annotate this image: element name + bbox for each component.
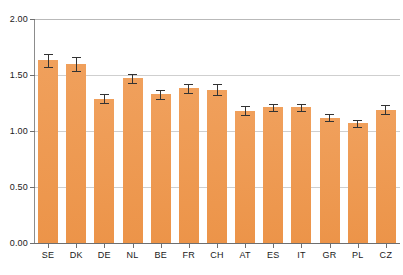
bar	[348, 123, 368, 243]
error-bar-cap-lower	[184, 93, 193, 94]
error-bar-line	[160, 90, 161, 99]
x-axis-tick-mark	[245, 244, 246, 248]
error-bar-cap-lower	[269, 111, 278, 112]
error-bar-cap-upper	[44, 54, 53, 55]
y-axis-tick-label: 1.50	[0, 70, 28, 81]
error-bar-cap-upper	[100, 94, 109, 95]
error-bar-cap-lower	[156, 99, 165, 100]
bar-group	[348, 19, 368, 243]
y-axis-tick-mark	[30, 131, 35, 132]
x-axis-tick-label: SE	[34, 250, 62, 260]
x-axis-tick-mark	[133, 244, 134, 248]
y-axis-tick-label: 2.00	[0, 14, 28, 25]
bar-chart: 0.000.501.001.502.00 SEDKDENLBEFRCHATESI…	[0, 0, 403, 275]
y-axis-tick-text: 0.50	[0, 182, 28, 192]
x-axis-tick-label: DE	[90, 250, 118, 260]
bar-group	[38, 19, 58, 243]
x-axis-tick-mark	[301, 244, 302, 248]
x-axis-tick-label: CH	[203, 250, 231, 260]
x-axis-tick-mark	[48, 244, 49, 248]
x-axis-tick-label: BE	[147, 250, 175, 260]
bar	[66, 64, 86, 243]
y-axis-tick-label: 1.00	[0, 126, 28, 137]
x-axis-tick-mark	[189, 244, 190, 248]
bar-group	[291, 19, 311, 243]
bar-group	[376, 19, 396, 243]
bar	[179, 88, 199, 243]
bar	[151, 94, 171, 243]
error-bar-cap-upper	[156, 90, 165, 91]
bar-group	[207, 19, 227, 243]
x-axis-tick-mark	[386, 244, 387, 248]
y-axis-tick-text: 1.50	[0, 70, 28, 80]
y-axis-tick-text: 2.00	[0, 14, 28, 24]
x-axis-tick-mark	[330, 244, 331, 248]
error-bar-line	[188, 84, 189, 93]
error-bar-cap-lower	[72, 71, 81, 72]
x-axis-tick-label: CZ	[372, 250, 400, 260]
bar	[94, 99, 114, 243]
x-axis-tick-mark	[76, 244, 77, 248]
x-axis-tick-label: PL	[344, 250, 372, 260]
error-bar-cap-lower	[128, 83, 137, 84]
error-bar-cap-lower	[381, 114, 390, 115]
bar-group	[66, 19, 86, 243]
bar-group	[151, 19, 171, 243]
y-axis-tick-mark	[30, 187, 35, 188]
error-bar-cap-lower	[241, 115, 250, 116]
error-bar-cap-upper	[213, 84, 222, 85]
bar-group	[123, 19, 143, 243]
bar-group	[179, 19, 199, 243]
error-bar-cap-lower	[325, 121, 334, 122]
error-bar-line	[301, 104, 302, 111]
error-bar-line	[104, 94, 105, 103]
bar-group	[235, 19, 255, 243]
error-bar-line	[245, 106, 246, 115]
bar	[263, 107, 283, 243]
x-axis-tick-label: AT	[231, 250, 259, 260]
y-axis-tick-mark	[30, 75, 35, 76]
error-bar-line	[48, 54, 49, 67]
y-axis-tick-text: 1.00	[0, 126, 28, 136]
bar	[123, 78, 143, 243]
error-bar-cap-lower	[213, 95, 222, 96]
bar-group	[320, 19, 340, 243]
bar	[235, 111, 255, 243]
error-bar-cap-lower	[100, 103, 109, 104]
y-axis-tick-label: 0.00	[0, 238, 28, 249]
x-axis-tick-label: IT	[287, 250, 315, 260]
error-bar-line	[357, 120, 358, 127]
bar-group	[94, 19, 114, 243]
error-bar-line	[273, 104, 274, 111]
x-axis-tick-label: ES	[259, 250, 287, 260]
error-bar-line	[132, 74, 133, 83]
y-axis-tick-mark	[30, 19, 35, 20]
x-axis-tick-label: NL	[118, 250, 146, 260]
error-bar-line	[217, 84, 218, 95]
bar	[207, 90, 227, 243]
error-bar-cap-upper	[353, 120, 362, 121]
error-bar-line	[329, 114, 330, 121]
error-bar-cap-upper	[184, 84, 193, 85]
x-axis-tick-mark	[161, 244, 162, 248]
x-axis-tick-mark	[217, 244, 218, 248]
bar	[376, 110, 396, 243]
error-bar-cap-upper	[269, 104, 278, 105]
error-bar-cap-lower	[44, 67, 53, 68]
error-bar-cap-upper	[128, 74, 137, 75]
bar	[291, 107, 311, 243]
bar-group	[263, 19, 283, 243]
x-axis-tick-mark	[104, 244, 105, 248]
error-bar-cap-upper	[241, 106, 250, 107]
error-bar-line	[76, 57, 77, 70]
error-bar-cap-upper	[297, 104, 306, 105]
x-axis-tick-label: GR	[316, 250, 344, 260]
bar	[38, 60, 58, 243]
x-axis-tick-mark	[273, 244, 274, 248]
error-bar-cap-upper	[325, 114, 334, 115]
error-bar-line	[385, 105, 386, 114]
x-axis-tick-label: DK	[62, 250, 90, 260]
bar	[320, 118, 340, 243]
x-axis-tick-label: FR	[175, 250, 203, 260]
y-axis-tick-text: 0.00	[0, 238, 28, 248]
